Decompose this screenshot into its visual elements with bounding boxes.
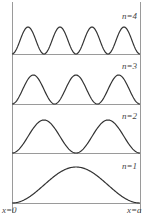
probability-curve-n1 — [12, 167, 140, 203]
axis-label-left: x=0 — [2, 206, 17, 215]
panel-label-n4: n=4 — [122, 12, 137, 21]
probability-curve-n2 — [12, 120, 140, 153]
panel-label-n2: n=2 — [122, 112, 137, 121]
probability-curve-n3 — [12, 75, 140, 104]
wave-curves — [12, 27, 140, 203]
panel-label-n1: n=1 — [122, 162, 137, 171]
probability-curve-n4 — [12, 27, 140, 54]
diagram-frame — [12, 2, 141, 213]
panel-label-n3: n=3 — [122, 62, 137, 71]
axis-label-right: x=a — [127, 206, 142, 215]
